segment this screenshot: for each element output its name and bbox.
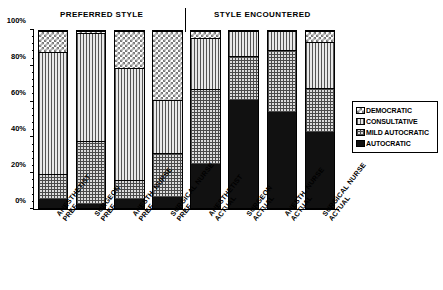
y-tick-minor <box>32 158 34 159</box>
bar-segment-democratic <box>191 31 220 38</box>
y-tick-mark: 60% <box>30 101 34 102</box>
bar-segment-consultative <box>153 100 182 153</box>
y-tick-minor <box>32 165 34 166</box>
y-tick-mark: 40% <box>30 136 34 137</box>
legend-item-mild[interactable]: MILD AUTOCRATIC <box>356 127 435 138</box>
bar-segment-mild <box>229 56 258 100</box>
legend-label: DEMOCRATIC <box>366 107 412 114</box>
y-tick-mark: 100% <box>30 29 34 30</box>
group-title-preferred: PREFERRED STYLE <box>60 10 143 19</box>
y-tick-mark: 80% <box>30 65 34 66</box>
y-tick-minor <box>32 58 34 59</box>
legend-label: MILD AUTOCRATIC <box>366 129 429 136</box>
bar-segment-democratic <box>77 31 106 33</box>
bar-segment-democratic <box>39 31 68 52</box>
y-tick-minor <box>32 151 34 152</box>
bar-segment-consultative <box>306 42 335 88</box>
y-tick-minor <box>32 79 34 80</box>
y-tick-minor <box>32 187 34 188</box>
bar-segment-consultative <box>39 52 68 174</box>
y-tick-label: 40% <box>11 124 26 133</box>
legend-item-democratic[interactable]: DEMOCRATIC <box>356 105 435 116</box>
bar-segment-mild <box>306 88 335 132</box>
bar-anesthetist-pref[interactable] <box>38 30 69 209</box>
y-tick-minor <box>32 43 34 44</box>
y-tick-minor <box>32 122 34 123</box>
y-tick-label: 20% <box>11 160 26 169</box>
bar-segment-democratic <box>306 31 335 42</box>
bar-segment-consultative <box>77 33 106 141</box>
bar-segment-democratic <box>115 31 144 68</box>
bar-segment-consultative <box>268 31 297 50</box>
checkerboard-swatch <box>356 107 365 114</box>
solid-black-swatch <box>356 140 365 147</box>
bar-segment-mild <box>268 50 297 112</box>
y-tick-minor <box>32 115 34 116</box>
y-tick-minor <box>32 86 34 87</box>
group-title-style-encountered: STYLE ENCOUNTERED <box>214 10 311 19</box>
legend-item-consultative[interactable]: CONSULTATIVE <box>356 116 435 127</box>
bar-segment-mild <box>39 174 68 199</box>
bar-segment-mild <box>191 89 220 163</box>
legend-item-autocratic[interactable]: AUTOCRATIC <box>356 138 435 149</box>
y-tick-label: 80% <box>11 52 26 61</box>
bar-anesth-nurse-actual[interactable] <box>267 30 298 209</box>
bar-segment-consultative <box>115 68 144 180</box>
y-tick-minor <box>32 129 34 130</box>
bar-anesth-nurse-pref[interactable] <box>114 30 145 209</box>
y-tick-minor <box>32 72 34 73</box>
y-tick-label: 0% <box>15 196 26 205</box>
y-tick-minor <box>32 194 34 195</box>
bar-segment-consultative <box>229 31 258 56</box>
legend-label: AUTOCRATIC <box>366 140 411 147</box>
crosshatch-swatch <box>356 129 365 136</box>
group-divider <box>185 8 186 32</box>
y-tick-mark: 20% <box>30 172 34 173</box>
y-tick-minor <box>32 50 34 51</box>
y-tick-label: 100% <box>7 16 26 25</box>
y-tick-minor <box>32 144 34 145</box>
legend-label: CONSULTATIVE <box>366 118 418 125</box>
chart-legend: DEMOCRATICCONSULTATIVEMILD AUTOCRATICAUT… <box>352 101 438 153</box>
y-tick-mark: 0% <box>30 208 34 209</box>
stacked-bar-chart: PREFERRED STYLE STYLE ENCOUNTERED 0%20%4… <box>0 0 443 290</box>
y-tick-minor <box>32 36 34 37</box>
y-tick-label: 60% <box>11 88 26 97</box>
y-tick-minor <box>32 93 34 94</box>
y-tick-minor <box>32 179 34 180</box>
y-tick-minor <box>32 108 34 109</box>
bar-segment-democratic <box>153 31 182 100</box>
bar-segment-consultative <box>191 38 220 89</box>
y-tick-minor <box>32 201 34 202</box>
vertical-stripe-swatch <box>356 118 365 125</box>
